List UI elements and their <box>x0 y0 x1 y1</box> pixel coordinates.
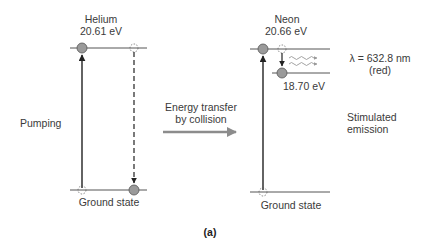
stimulated-label-line1: Stimulated <box>347 111 397 123</box>
pumping-label: Pumping <box>20 117 61 129</box>
neon-name: Neon <box>262 13 312 25</box>
helium-ground-atom <box>129 185 139 195</box>
neon-excited-atom <box>258 44 268 54</box>
neon-ground-label: Ground state <box>256 199 326 211</box>
neon-lower-energy: 18.70 eV <box>276 80 332 92</box>
neon-lower-atom <box>277 68 287 78</box>
helium-excited-atom <box>77 43 87 53</box>
transfer-label-line1: Energy transfer <box>156 101 246 113</box>
helium-name: Helium <box>68 13 134 25</box>
photon-wave-1 <box>289 57 317 60</box>
neon-energy: 20.66 eV <box>256 25 316 37</box>
color-label: (red) <box>345 64 415 76</box>
photon-wave-2 <box>289 63 317 66</box>
transfer-label-line2: by collision <box>156 113 246 125</box>
figure-caption: (a) <box>200 226 220 238</box>
wavelength-label: λ = 632.8 nm <box>345 52 415 64</box>
helium-ground-label: Ground state <box>74 196 144 208</box>
helium-energy: 20.61 eV <box>68 25 134 37</box>
stimulated-label-line2: emission <box>347 123 388 135</box>
